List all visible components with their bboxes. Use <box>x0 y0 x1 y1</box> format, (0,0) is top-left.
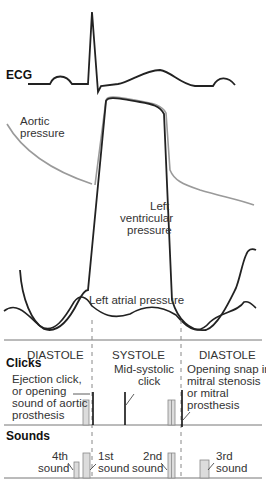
opening-snap-pointer <box>183 412 190 420</box>
opening-snap-label-1: Opening snap in <box>187 363 266 375</box>
la-label: Left atrial pressure <box>89 294 184 306</box>
phase-diastole-2: DIASTOLE <box>199 349 256 361</box>
aortic-label-1: Aortic <box>20 115 49 127</box>
opening-snap-label-2: mitral stenosis <box>187 375 261 387</box>
lv-label-1: Left <box>150 200 169 212</box>
s1-pointer <box>90 464 96 470</box>
lv-label-2: ventricular <box>120 212 173 224</box>
midsystolic-label-2: click <box>138 375 160 387</box>
midsystolic-label-1: Mid-systolic <box>114 363 174 375</box>
clicks-heading: Clicks <box>6 357 41 369</box>
s2-label-2: sound <box>132 462 163 474</box>
aortic-pressure-curve-systolic <box>95 97 254 205</box>
sound-bar-s4 <box>74 462 79 478</box>
s4-label-1: 4th <box>52 450 68 462</box>
ecg-label: ECG <box>6 69 32 81</box>
opening-snap-label-3: or mitral <box>187 387 229 399</box>
phase-systole: SYSTOLE <box>112 349 165 361</box>
s1-label-1: 1st <box>98 450 113 462</box>
ejection-label-1: Ejection click, <box>12 373 82 385</box>
aortic-label-2: pressure <box>20 127 65 139</box>
s1-label-2: sound <box>98 462 129 474</box>
midsystolic-click-pointer <box>126 394 134 405</box>
ecg-trace <box>28 12 235 92</box>
s3-label-1: 3rd <box>216 450 233 462</box>
lv-label-3: pressure <box>127 224 172 236</box>
sounds-heading: Sounds <box>6 430 50 442</box>
sound-bar-s1 <box>83 453 90 478</box>
ejection-label-2: or opening <box>12 385 66 397</box>
opening-snap-label-4: prosthesis <box>187 399 239 411</box>
s2-label-1: 2nd <box>143 450 162 462</box>
ejection-label-3: sound of aortic <box>12 397 87 409</box>
s4-label-2: sound <box>38 462 69 474</box>
sound-bar-s3 <box>200 460 209 478</box>
s3-label-2: sound <box>216 462 247 474</box>
ejection-label-4: prosthesis <box>12 409 64 421</box>
